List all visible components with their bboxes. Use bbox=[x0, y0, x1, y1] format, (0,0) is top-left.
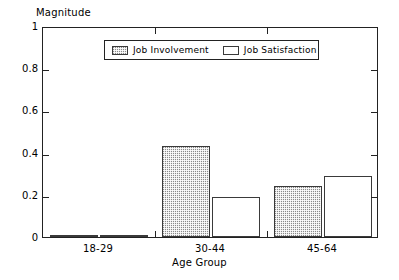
x-axis-title: Age Group bbox=[0, 257, 399, 268]
legend-swatch-open-icon bbox=[223, 46, 239, 55]
bar bbox=[162, 146, 210, 237]
y-axis-title: Magnitude bbox=[36, 7, 91, 19]
legend-item-job-involvement: Job Involvement bbox=[112, 45, 209, 55]
chart-legend: Job Involvement Job Satisfaction bbox=[104, 40, 319, 60]
y-tick-mark bbox=[43, 197, 49, 198]
y-tick-label: 0 bbox=[2, 233, 38, 243]
x-tick-label: 45-64 bbox=[266, 243, 378, 254]
y-tick-label: 0.8 bbox=[2, 64, 38, 74]
legend-label-job-satisfaction: Job Satisfaction bbox=[244, 45, 317, 55]
x-tick-mark bbox=[267, 231, 268, 237]
y-tick-label: 0.2 bbox=[2, 191, 38, 201]
y-tick-label: 1 bbox=[2, 22, 38, 32]
y-tick-mark bbox=[43, 112, 49, 113]
y-tick-mark bbox=[371, 155, 377, 156]
y-tick-mark bbox=[371, 70, 377, 71]
x-tick-mark bbox=[155, 231, 156, 237]
y-tick-mark bbox=[43, 70, 49, 71]
y-tick-mark bbox=[371, 197, 377, 198]
x-tick-label: 18-29 bbox=[42, 243, 154, 254]
bar bbox=[324, 176, 372, 237]
legend-item-job-satisfaction: Job Satisfaction bbox=[223, 45, 317, 55]
bar bbox=[50, 235, 98, 237]
legend-swatch-hatched-icon bbox=[112, 46, 128, 55]
bar-chart: Magnitude 00.20.40.60.81 Job Involvement… bbox=[0, 0, 399, 280]
y-tick-label: 0.6 bbox=[2, 106, 38, 116]
legend-label-job-involvement: Job Involvement bbox=[133, 45, 209, 55]
bar bbox=[274, 186, 322, 237]
x-tick-mark bbox=[155, 28, 156, 34]
bar bbox=[212, 197, 260, 237]
x-tick-label: 30-44 bbox=[154, 243, 266, 254]
bar bbox=[100, 235, 148, 237]
y-axis-ticks: 00.20.40.60.81 bbox=[0, 27, 38, 238]
x-tick-mark bbox=[267, 28, 268, 34]
y-tick-mark bbox=[371, 112, 377, 113]
y-tick-label: 0.4 bbox=[2, 149, 38, 159]
y-tick-mark bbox=[43, 155, 49, 156]
